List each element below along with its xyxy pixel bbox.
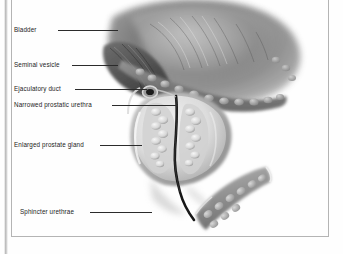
label-bladder: Bladder	[14, 27, 37, 33]
anatomical-figure: Bladder Seminal vesicle Ejaculatory duct…	[0, 0, 343, 254]
label-ejaculatory-duct: Ejaculatory duct	[14, 86, 61, 92]
leader-line-bladder	[58, 30, 118, 31]
leader-line-narrowed-prostatic-urethra	[112, 105, 178, 106]
label-enlarged-prostate-gland: Enlarged prostate gland	[14, 142, 84, 148]
prostate-illustration	[0, 0, 343, 254]
leader-line-ejaculatory-duct	[75, 89, 147, 90]
label-sphincter-urethrae: Sphincter urethrae	[20, 209, 74, 215]
leader-line-enlarged-prostate-gland	[100, 145, 142, 146]
leader-line-sphincter-urethrae	[90, 212, 152, 213]
prostate-gland-structure	[130, 92, 232, 186]
leader-line-seminal-vesicle	[72, 65, 118, 66]
label-seminal-vesicle: Seminal vesicle	[14, 62, 60, 68]
label-narrowed-prostatic-urethra: Narrowed prostatic urethra	[14, 102, 92, 108]
